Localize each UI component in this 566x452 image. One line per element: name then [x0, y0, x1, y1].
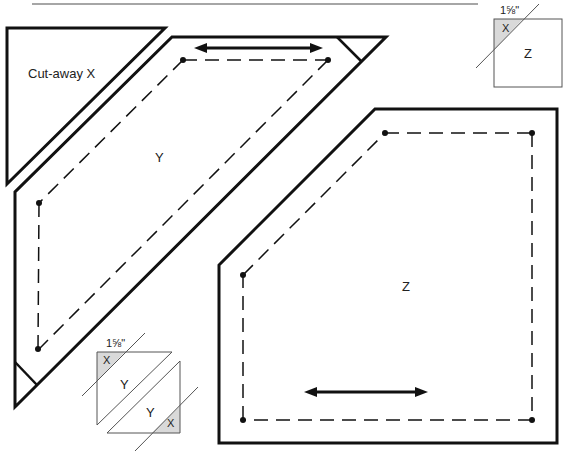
inset-z-x-label: X [502, 22, 510, 34]
inset-y-diagram: X Y Y X 1⅝" [82, 333, 198, 451]
quilt-template-diagram: Cut-away X Y [0, 0, 566, 452]
inset-z-z-label: Z [524, 46, 532, 61]
piece-z-label: Z [402, 279, 410, 294]
piece-y: Y [15, 37, 386, 407]
corner-trim-bottom [15, 362, 37, 385]
piece-y-label: Y [155, 150, 164, 165]
grain-arrow-z [304, 387, 428, 397]
cutaway-x-label: Cut-away X [28, 66, 96, 81]
inset-y-x-bottom: X [167, 417, 175, 429]
cutaway-x-piece: Cut-away X [7, 28, 165, 184]
inset-y-y-bottom: Y [146, 405, 155, 420]
inset-z-diagram: X Z 1⅝" [476, 4, 562, 87]
inset-z-measure: 1⅝" [500, 4, 519, 16]
inset-y-measure: 1⅝" [106, 337, 125, 349]
inset-y-x-top: X [103, 354, 111, 366]
inset-y-y-top: Y [120, 377, 129, 392]
corner-trim-top [337, 37, 362, 62]
piece-z: Z [219, 109, 557, 443]
grain-arrow-y [194, 43, 323, 53]
